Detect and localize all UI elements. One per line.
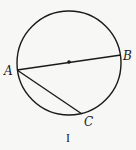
label-a: A: [3, 64, 13, 78]
label-c: C: [84, 115, 93, 129]
center-point: [67, 60, 71, 64]
chord-ac: [17, 70, 82, 114]
circle-diagram: A B C I: [0, 0, 136, 150]
label-b: B: [122, 49, 132, 63]
figure-caption: I: [66, 131, 70, 145]
